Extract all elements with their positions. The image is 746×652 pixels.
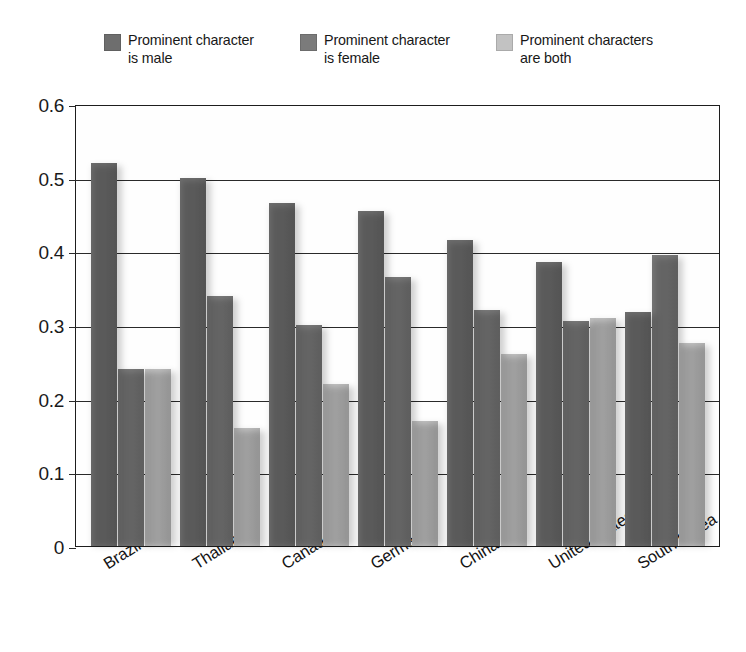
bar	[447, 240, 473, 546]
y-axis-tick-label: 0.5	[38, 169, 64, 191]
y-axis-tick	[69, 180, 76, 181]
legend-item-label: Prominent characters are both	[520, 32, 653, 67]
bar-group	[269, 106, 349, 546]
y-axis-tick	[69, 106, 76, 107]
bar-group	[180, 106, 260, 546]
bar-group	[358, 106, 438, 546]
bar-group	[625, 106, 705, 546]
y-axis-tick-label: 0.6	[38, 95, 64, 117]
bar	[269, 203, 295, 546]
chart-bars	[76, 106, 719, 546]
y-axis-tick	[69, 474, 76, 475]
legend-swatch-icon	[300, 34, 317, 51]
y-axis-tick-label: 0.3	[38, 316, 64, 338]
y-axis-tick	[69, 253, 76, 254]
bar	[536, 262, 562, 546]
legend-item-label: Prominent character is male	[128, 32, 254, 67]
bar	[625, 312, 651, 546]
legend-item-male: Prominent character is male	[104, 32, 300, 67]
legend-swatch-icon	[496, 34, 513, 51]
chart-plot-area: 00.10.20.30.40.50.6	[75, 105, 720, 547]
legend-item-both: Prominent characters are both	[496, 32, 692, 67]
bar	[358, 211, 384, 546]
legend-item-label: Prominent character is female	[324, 32, 450, 67]
bar-group	[536, 106, 616, 546]
y-axis-tick-label: 0.4	[38, 242, 64, 264]
bar	[180, 178, 206, 546]
chart-legend: Prominent character is male Prominent ch…	[104, 32, 704, 82]
chart-x-axis-labels: BrazilThailandCanadaGermanyChinaUnited S…	[0, 547, 746, 652]
bar	[91, 163, 117, 546]
y-axis-tick	[69, 327, 76, 328]
y-axis-tick-label: 0.2	[38, 390, 64, 412]
legend-swatch-icon	[104, 34, 121, 51]
y-axis-tick	[69, 401, 76, 402]
bar-group	[91, 106, 171, 546]
y-axis-tick-label: 0.1	[38, 463, 64, 485]
legend-item-female: Prominent character is female	[300, 32, 496, 67]
bar-group	[447, 106, 527, 546]
